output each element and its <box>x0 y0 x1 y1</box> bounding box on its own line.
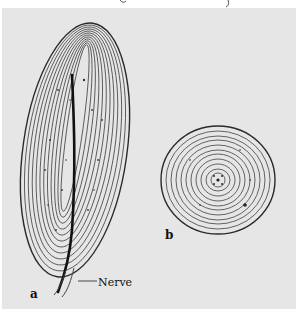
label-b: b <box>165 228 173 242</box>
nerve-label: Nerve <box>98 276 132 289</box>
label-a: a <box>30 287 38 301</box>
corpuscle-a-longitudinal <box>6 16 145 297</box>
illustration <box>0 0 302 309</box>
